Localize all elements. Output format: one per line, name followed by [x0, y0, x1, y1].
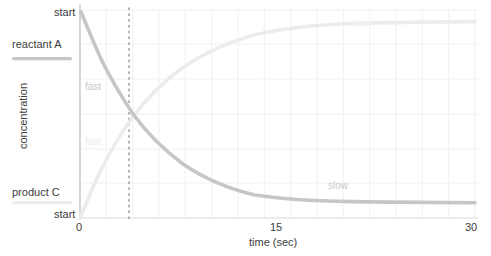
y-axis-label: concentration: [17, 76, 29, 156]
grid-horizontal: [80, 10, 478, 218]
legend-swatch-reactant-a: [12, 57, 72, 60]
x-tick-0: 0: [76, 221, 82, 233]
annotation-slow-product: slow: [352, 18, 372, 29]
annotation-fast-reactant: fast: [85, 81, 101, 92]
legend-swatch-product-c: [12, 201, 72, 204]
annotation-slow-reactant: slow: [328, 180, 348, 191]
legend-item-reactant-a: reactant A: [12, 38, 62, 50]
x-tick-15: 15: [270, 221, 282, 233]
chart-figure: start reactant A concentration product C…: [0, 0, 491, 256]
annotation-fast-product: fast: [85, 136, 101, 147]
x-tick-30: 30: [465, 221, 477, 233]
start-label-top: start: [54, 6, 75, 18]
start-label-bottom: start: [54, 208, 75, 220]
legend-item-product-c: product C: [12, 186, 60, 198]
x-axis-label: time (sec): [249, 236, 297, 248]
